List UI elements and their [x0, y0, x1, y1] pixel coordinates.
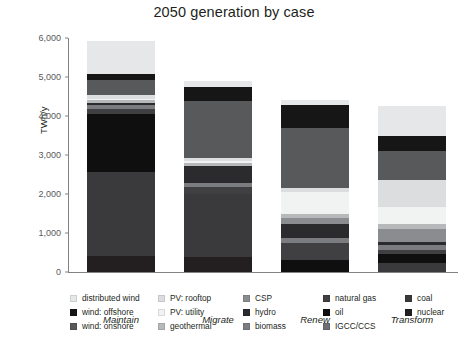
legend-item-distributed-wind[interactable]: distributed wind: [70, 292, 158, 304]
bar-segment-pv-utility[interactable]: [378, 207, 446, 223]
legend-swatch-icon: [70, 323, 77, 330]
bar-segment-nuclear[interactable]: [87, 256, 155, 272]
legend-label: wind: onshore: [82, 322, 134, 330]
legend-swatch-icon: [158, 309, 165, 316]
legend-label: biomass: [255, 322, 286, 330]
bar-segment-pv-utility[interactable]: [281, 192, 349, 214]
bar-segment-pv-rooftop[interactable]: [378, 180, 446, 207]
bar-segment-wind-offshore[interactable]: [281, 105, 349, 128]
legend-swatch-icon: [405, 309, 412, 316]
bar-segment-nuclear[interactable]: [184, 257, 252, 272]
legend-swatch-icon: [158, 295, 165, 302]
bar-segment-natural-gas[interactable]: [281, 243, 349, 260]
legend-label: PV: utility: [170, 308, 204, 316]
bar-segment-oil[interactable]: [87, 114, 155, 172]
y-tick-mark: [65, 233, 68, 234]
chart-legend: distributed windwind: offshorewind: onsh…: [70, 292, 466, 336]
chart-figure: 2050 generation by case TWh/y 01,0002,00…: [0, 0, 468, 339]
bar-segment-distributed-wind[interactable]: [87, 41, 155, 74]
legend-column: natural gasoilIGCC/CCS: [323, 292, 405, 336]
legend-label: coal: [417, 294, 432, 302]
legend-item-wind-offshore[interactable]: wind: offshore: [70, 306, 158, 318]
legend-label: oil: [335, 308, 343, 316]
legend-swatch-icon: [323, 295, 330, 302]
bar-segment-distributed-wind[interactable]: [378, 106, 446, 136]
bar-segment-coal[interactable]: [378, 263, 446, 272]
legend-item-nuclear[interactable]: nuclear: [405, 306, 465, 318]
legend-item-hydro[interactable]: hydro: [243, 306, 323, 318]
legend-item-pv-utility[interactable]: PV: utility: [158, 306, 243, 318]
legend-label: CSP: [255, 294, 272, 302]
y-tick-label: 3,000: [9, 150, 68, 160]
legend-label: nuclear: [417, 308, 444, 316]
bar-segment-wind-onshore[interactable]: [87, 80, 155, 95]
y-tick-label: 1,000: [9, 228, 68, 238]
y-tick-mark: [65, 272, 68, 273]
legend-swatch-icon: [243, 323, 250, 330]
bar-segment-wind-onshore[interactable]: [184, 101, 252, 158]
legend-label: natural gas: [335, 294, 376, 302]
legend-item-pv-rooftop[interactable]: PV: rooftop: [158, 292, 243, 304]
bar-segment-coal[interactable]: [87, 172, 155, 256]
legend-item-wind-onshore[interactable]: wind: onshore: [70, 320, 158, 332]
bar-segment-hydro[interactable]: [281, 224, 349, 238]
legend-item-geothermal[interactable]: geothermal: [158, 320, 243, 332]
x-axis-line: [68, 272, 458, 273]
legend-item-coal[interactable]: coal: [405, 292, 465, 304]
bar-segment-hydro[interactable]: [184, 166, 252, 183]
y-tick-label: 5,000: [9, 72, 68, 82]
bar-segment-wind-onshore[interactable]: [281, 128, 349, 188]
y-tick-label: 0: [9, 267, 68, 277]
bar-segment-csp[interactable]: [378, 229, 446, 242]
y-tick-mark: [65, 38, 68, 39]
legend-label: geothermal: [170, 322, 212, 330]
legend-swatch-icon: [158, 323, 165, 330]
plot-area: TWh/y 01,0002,0003,0004,0005,0006,000 Ma…: [68, 38, 456, 272]
legend-swatch-icon: [405, 295, 412, 302]
bar-segment-wind-onshore[interactable]: [378, 151, 446, 180]
bar-segment-natural-gas[interactable]: [184, 187, 252, 194]
y-tick-label: 6,000: [9, 33, 68, 43]
legend-swatch-icon: [243, 295, 250, 302]
bar-migrate[interactable]: [184, 81, 252, 272]
legend-item-natural-gas[interactable]: natural gas: [323, 292, 405, 304]
legend-label: PV: rooftop: [170, 294, 211, 302]
y-tick-mark: [65, 194, 68, 195]
bar-segment-coal[interactable]: [184, 194, 252, 257]
legend-swatch-icon: [70, 295, 77, 302]
legend-swatch-icon: [243, 309, 250, 316]
y-tick-mark: [65, 116, 68, 117]
bar-segment-wind-offshore[interactable]: [378, 136, 446, 152]
y-tick-mark: [65, 77, 68, 78]
bar-maintain[interactable]: [87, 41, 155, 272]
legend-label: distributed wind: [82, 294, 140, 302]
chart-title: 2050 generation by case: [0, 4, 468, 20]
y-tick-label: 2,000: [9, 189, 68, 199]
bar-segment-oil[interactable]: [378, 254, 446, 264]
legend-label: wind: offshore: [82, 308, 134, 316]
legend-column: CSPhydrobiomass: [243, 292, 323, 336]
y-tick-label: 4,000: [9, 111, 68, 121]
legend-item-biomass[interactable]: biomass: [243, 320, 323, 332]
legend-column: distributed windwind: offshorewind: onsh…: [70, 292, 158, 336]
bar-segment-oil[interactable]: [281, 260, 349, 272]
legend-column: PV: rooftopPV: utilitygeothermal: [158, 292, 243, 336]
legend-item-oil[interactable]: oil: [323, 306, 405, 318]
bar-transform[interactable]: [378, 106, 446, 272]
legend-label: hydro: [255, 308, 276, 316]
bar-renew[interactable]: [281, 100, 349, 272]
bar-segment-wind-offshore[interactable]: [184, 87, 252, 101]
legend-item-igcc-ccs[interactable]: IGCC/CCS: [323, 320, 405, 332]
bar-segment-distributed-wind[interactable]: [184, 81, 252, 88]
legend-swatch-icon: [323, 323, 330, 330]
legend-column: coalnuclear: [405, 292, 465, 336]
legend-swatch-icon: [323, 309, 330, 316]
y-tick-mark: [65, 155, 68, 156]
legend-item-csp[interactable]: CSP: [243, 292, 323, 304]
legend-swatch-icon: [70, 309, 77, 316]
legend-label: IGCC/CCS: [335, 322, 376, 330]
